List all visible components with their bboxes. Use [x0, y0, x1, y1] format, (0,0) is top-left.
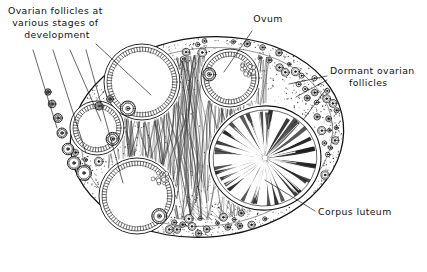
leader-follicles-1 [33, 50, 57, 128]
ovary-diagram-canvas: Ovarian follicles at various stages of d… [0, 0, 427, 272]
ovarian-follicles-stages-label: Ovarian follicles at various stages of d… [8, 5, 106, 40]
dormant-ovarian-follicles-label: Dormant ovarian follicles [330, 65, 418, 88]
diagram-ink [33, 23, 354, 268]
ovary-diagram: Ovarian follicles at various stages of d… [0, 0, 427, 272]
ovum-label: Ovum [253, 13, 282, 24]
leader-follicles-2 [53, 50, 86, 153]
corpus-luteum-label: Corpus luteum [318, 206, 392, 217]
